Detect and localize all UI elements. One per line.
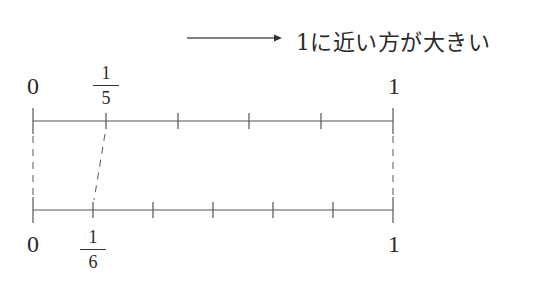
right-arrow-icon (187, 35, 282, 42)
bottom-fraction-label: 1 6 (80, 228, 106, 271)
bottom-start-label: 0 (27, 232, 39, 256)
top-number-line (33, 108, 393, 134)
fraction-numerator: 1 (98, 64, 115, 85)
fraction-numerator: 1 (85, 228, 102, 249)
dashed-connectors (33, 134, 393, 200)
fraction-denominator: 5 (102, 86, 111, 107)
fraction-denominator: 6 (89, 250, 98, 271)
top-start-label: 0 (27, 74, 39, 98)
bottom-number-line (33, 197, 393, 223)
caption-text: 1に近い方が大きい (296, 24, 491, 56)
bottom-end-label: 1 (388, 232, 400, 256)
top-fraction-label: 1 5 (93, 64, 119, 107)
top-end-label: 1 (388, 74, 400, 98)
